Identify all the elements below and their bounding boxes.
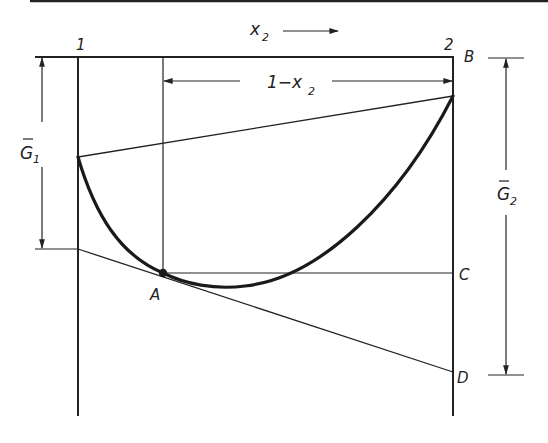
- svg-text:1: 1: [33, 153, 40, 166]
- svg-text:1−x: 1−x: [267, 72, 303, 92]
- label-g2-bar: G 2: [497, 181, 517, 208]
- label-g1-bar: G 1: [20, 139, 40, 166]
- label-point-C: C: [459, 266, 470, 284]
- svg-text:x: x: [249, 19, 261, 39]
- label-point-A: A: [149, 286, 160, 304]
- label-point-B: B: [464, 48, 474, 66]
- svg-text:2: 2: [510, 195, 517, 208]
- point-A-marker: [159, 269, 167, 277]
- svg-text:G: G: [497, 184, 510, 204]
- free-energy-diagram: 1 2 B C D A x 2 1−x 2 G 1 G 2: [0, 0, 548, 443]
- tangent-line-A-D: [78, 249, 453, 372]
- svg-text:2: 2: [308, 85, 315, 98]
- chord-line: [78, 96, 453, 157]
- svg-text:G: G: [20, 143, 33, 163]
- label-x2: x 2: [249, 19, 269, 44]
- label-component-2: 2: [444, 36, 454, 54]
- label-1-minus-x2: 1−x 2: [267, 72, 315, 98]
- label-point-D: D: [457, 369, 469, 387]
- label-component-1: 1: [76, 36, 86, 54]
- free-energy-curve: [78, 96, 453, 287]
- svg-text:2: 2: [262, 31, 269, 44]
